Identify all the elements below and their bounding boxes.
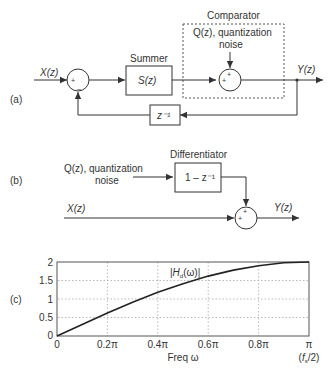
sum1-plus: + — [71, 77, 75, 84]
diff-block-label: 1 – z⁻¹ — [185, 172, 216, 183]
y-tick-1: 1 — [47, 294, 53, 305]
panel-a: (a) X(z) + – Summer S(z) Comparator Q(z)… — [10, 10, 323, 125]
diff-noise-line1: Q(z), quantization — [64, 163, 143, 174]
x-tick-0-6pi: 0.6π — [198, 339, 219, 350]
panel-b-sum-plus-left: + — [238, 215, 242, 222]
diff-title: Differentiator — [170, 149, 228, 160]
panel-b-sum-plus-top: + — [243, 208, 247, 215]
x-tick-0-8pi: 0.8π — [248, 339, 269, 350]
summer-block-label: S(z) — [138, 75, 156, 86]
x-tick-0-2pi: 0.2π — [97, 339, 118, 350]
panel-c-chart: (c) 2 1.5 1 0.5 0 0 0.2π 0.4π 0.6π 0.8π … — [10, 257, 319, 364]
comparator-title: Comparator — [207, 10, 260, 21]
curve-label: |Hd(ω)| — [170, 267, 200, 279]
summer-title: Summer — [130, 53, 168, 64]
sum1-minus: – — [77, 85, 81, 92]
sum2-plus-left: + — [222, 77, 226, 84]
panel-b: (b) Q(z), quantization noise Differentia… — [10, 149, 299, 229]
y-tick-0: 0 — [47, 330, 53, 341]
sum2-plus-top: + — [227, 71, 231, 78]
x-tick-0-4pi: 0.4π — [147, 339, 168, 350]
panel-c-label: (c) — [10, 294, 22, 305]
x-tick-0: 0 — [54, 339, 60, 350]
panel-b-input-label: X(z) — [66, 203, 85, 214]
diff-to-sum-arrow — [221, 177, 246, 206]
y-tick-1-5: 1.5 — [39, 275, 53, 286]
y-tick-2: 2 — [47, 257, 53, 268]
comparator-noise-line2: noise — [219, 39, 243, 50]
fs-half-label: (fs/2) — [299, 352, 320, 364]
input-x-label: X(z) — [39, 67, 58, 78]
delay-block-label: z⁻¹ — [156, 110, 171, 121]
diff-noise-line2: noise — [95, 175, 119, 186]
comparator-noise-line1: Q(z), quantization — [193, 27, 272, 38]
x-axis-label: Freq ω — [167, 352, 198, 363]
output-y-label: Y(z) — [297, 64, 315, 75]
x-tick-pi: π — [306, 339, 313, 350]
panel-b-label: (b) — [10, 175, 22, 186]
sigma-delta-figure: (a) X(z) + – Summer S(z) Comparator Q(z)… — [0, 0, 336, 368]
panel-b-output-label: Y(z) — [274, 202, 292, 213]
y-tick-0-5: 0.5 — [39, 312, 53, 323]
panel-a-label: (a) — [10, 94, 22, 105]
